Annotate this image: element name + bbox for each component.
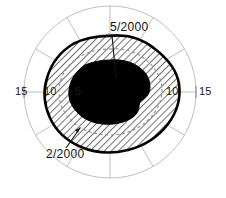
radial-tick-label-right-10: 10 [166,86,179,97]
radial-tick-label-left-15: 15 [15,86,28,97]
radial-tick-label-left-10: 10 [44,86,57,97]
radial-tick-label-right-15: 15 [199,86,212,97]
radial-tick-label-left-5: 5 [75,86,81,97]
annotation-label-5-2000: 5/2000 [110,21,149,33]
annotation-label-2-2000: 2/2000 [46,148,85,160]
